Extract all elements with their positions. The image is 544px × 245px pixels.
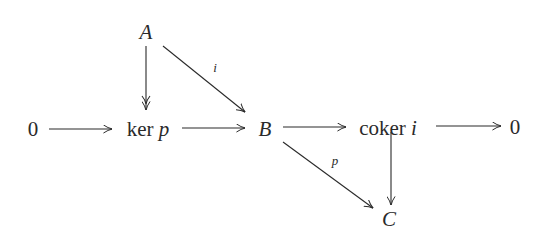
label-i: i — [213, 60, 217, 76]
node-c: C — [382, 209, 396, 230]
node-zero-right: 0 — [510, 117, 521, 138]
node-zero-left: 0 — [28, 119, 39, 140]
label-p: p — [332, 153, 339, 169]
ker-operator: ker — [127, 117, 154, 141]
node-a: A — [140, 22, 153, 43]
coker-variable: i — [411, 116, 417, 140]
node-b: B — [259, 119, 272, 140]
node-coker-i: coker i — [359, 118, 417, 139]
arrow-a-to-b — [163, 46, 245, 112]
arrow-b-to-c — [283, 142, 373, 208]
node-ker-p: ker p — [127, 119, 170, 140]
diagram-arrows — [0, 0, 544, 245]
coker-operator: coker — [359, 116, 406, 140]
ker-variable: p — [159, 117, 170, 141]
